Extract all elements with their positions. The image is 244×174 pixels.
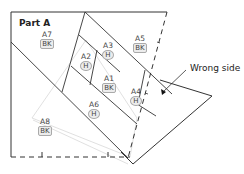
piece-a3-fabric: H	[102, 50, 113, 60]
piece-a6: A6 H	[87, 100, 101, 119]
piece-a7-fabric: BK	[40, 39, 53, 49]
piece-a1-label: A1	[101, 74, 117, 83]
seam-a3-a5	[85, 12, 172, 94]
piece-a5-fabric: BK	[133, 43, 146, 53]
piece-a5: A5 BK	[132, 34, 148, 53]
piece-a4: A4 H	[129, 87, 143, 106]
piece-a3: A3 H	[101, 41, 115, 60]
piece-a1-fabric: BK	[102, 83, 115, 93]
piece-a1: A1 BK	[101, 74, 117, 93]
piece-a2-label: A2	[79, 52, 93, 61]
piece-a8-fabric: BK	[38, 126, 51, 136]
piece-a8-label: A8	[37, 117, 53, 126]
piece-a4-label: A4	[129, 87, 143, 96]
piece-a4-fabric: H	[130, 96, 141, 106]
dash-mark-1	[157, 42, 160, 43]
wrong-side-edge-right	[133, 96, 212, 164]
piece-a2-fabric: H	[80, 61, 91, 71]
wrong-side-edge-top	[160, 80, 212, 96]
piece-a7-label: A7	[39, 30, 55, 39]
piece-a8: A8 BK	[37, 117, 53, 136]
wrong-side-edge-bottom	[121, 152, 133, 164]
piece-a7: A7 BK	[39, 30, 55, 49]
piece-a6-label: A6	[87, 100, 101, 109]
piece-a2: A2 H	[79, 52, 93, 71]
piece-a3-label: A3	[101, 41, 115, 50]
part-title: Part A	[19, 18, 50, 28]
piece-a6-fabric: H	[88, 109, 99, 119]
piece-a5-label: A5	[132, 34, 148, 43]
wrong-side-callout: Wrong side	[190, 63, 240, 73]
callout-leader-line	[164, 70, 186, 91]
